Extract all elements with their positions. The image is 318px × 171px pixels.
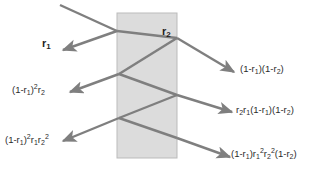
transmitted-ray-3 xyxy=(177,138,230,157)
exit-ray-left-2 xyxy=(70,74,119,92)
transmitted-ray-1 xyxy=(177,38,234,72)
label-interface-r2: r2 xyxy=(162,26,171,37)
label-right-second-transmission: r2r1(1-r1)(1-r2) xyxy=(236,105,294,115)
exit-ray-left-3 xyxy=(63,118,119,141)
label-reflected-r1: r1 xyxy=(42,38,51,49)
incident-ray xyxy=(60,5,117,31)
transmitted-ray-2 xyxy=(177,95,232,112)
label-right-third-transmission: (1-r1)r12r22(1-r2) xyxy=(231,149,297,159)
ray-diagram: r2 r1 (1-r1)2r2 (1-r1)2r1r22 (1-r1)(1-r2… xyxy=(0,0,318,171)
reflected-ray-r1 xyxy=(63,31,117,50)
ray-diagram-canvas xyxy=(0,0,318,171)
label-left-second-reflection: (1-r1)2r2 xyxy=(12,85,45,95)
label-left-third-reflection: (1-r1)2r1r22 xyxy=(5,135,49,145)
label-right-first-transmission: (1-r1)(1-r2) xyxy=(240,64,284,74)
